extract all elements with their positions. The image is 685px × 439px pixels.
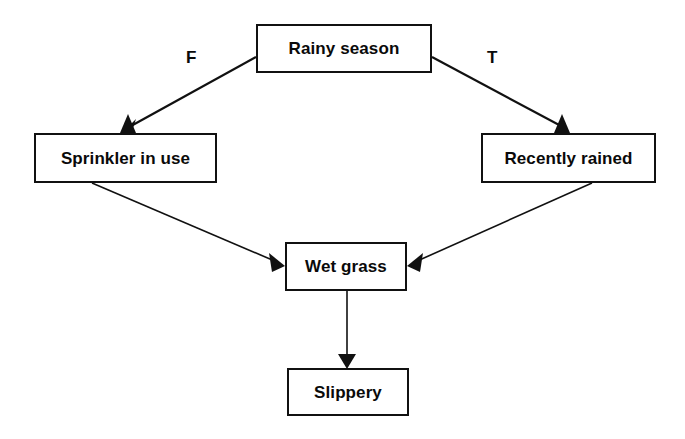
node-sprinkler-in-use[interactable]: Sprinkler in use bbox=[34, 133, 217, 183]
edge-rainy-to-sprinkler bbox=[120, 57, 256, 134]
edge-label-true: T bbox=[487, 48, 497, 68]
node-slippery[interactable]: Slippery bbox=[287, 368, 409, 416]
node-label: Recently rained bbox=[504, 150, 632, 167]
node-rainy-season[interactable]: Rainy season bbox=[256, 24, 432, 73]
edge-label-false: F bbox=[186, 48, 196, 68]
diagram-canvas: Rainy season Sprinkler in use Recently r… bbox=[0, 0, 685, 439]
node-recently-rained[interactable]: Recently rained bbox=[481, 133, 656, 183]
edge-wetgrass-to-slippery bbox=[338, 291, 356, 369]
node-label: Rainy season bbox=[289, 40, 400, 57]
edge-rainy-to-rained bbox=[432, 57, 570, 133]
node-wet-grass[interactable]: Wet grass bbox=[285, 242, 407, 291]
edge-rained-to-wetgrass bbox=[407, 183, 592, 272]
node-label: Sprinkler in use bbox=[61, 150, 190, 167]
edge-sprinkler-to-wetgrass bbox=[92, 183, 285, 272]
node-label: Wet grass bbox=[305, 258, 387, 275]
node-label: Slippery bbox=[314, 384, 382, 401]
